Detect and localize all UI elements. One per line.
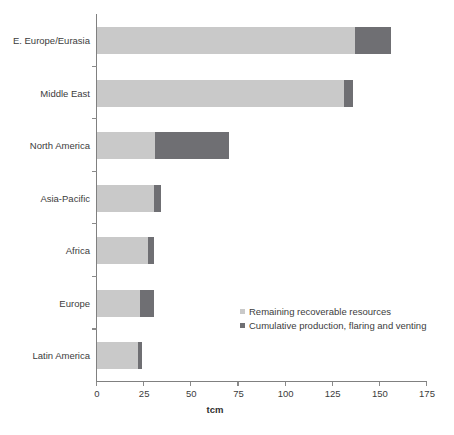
legend-item: Remaining recoverable resources [240, 306, 426, 317]
x-axis-title-label: tcm [207, 404, 224, 415]
x-axis-tick [285, 382, 286, 386]
chart-legend: Remaining recoverable resourcesCumulativ… [240, 306, 426, 334]
category-label: Africa [2, 237, 90, 264]
x-axis-tick [332, 382, 333, 386]
chart-category-row: Africa [97, 224, 427, 277]
bar-segment-remaining-recoverable-resources [97, 27, 355, 54]
legend-label: Cumulative production, flaring and venti… [249, 320, 426, 331]
stacked-bar [97, 290, 154, 317]
bar-segment-cumulative-production [138, 342, 142, 369]
x-axis-tick [96, 382, 97, 386]
stacked-bar [97, 185, 161, 212]
bar-segment-remaining-recoverable-resources [97, 80, 344, 107]
legend-swatch-icon [240, 309, 245, 314]
bar-segment-remaining-recoverable-resources [97, 237, 148, 264]
x-axis-tick [237, 382, 238, 386]
legend-label: Remaining recoverable resources [249, 306, 391, 317]
x-axis-title: tcm [0, 404, 454, 415]
x-axis-tick-label: 125 [325, 388, 341, 399]
bar-segment-cumulative-production [154, 185, 162, 212]
category-label: E. Europe/Eurasia [2, 27, 90, 54]
legend-item: Cumulative production, flaring and venti… [240, 320, 426, 331]
bar-segment-cumulative-production [355, 27, 391, 54]
category-label: North America [2, 132, 90, 159]
x-axis-tick [426, 382, 427, 386]
category-label: Latin America [2, 342, 90, 369]
category-label: Asia-Pacific [2, 185, 90, 212]
bar-segment-cumulative-production [344, 80, 353, 107]
chart-category-row: E. Europe/Eurasia [97, 14, 427, 67]
x-axis-tick-label: 50 [186, 388, 197, 399]
x-axis-tick-label: 150 [372, 388, 388, 399]
bar-chart: E. Europe/EurasiaMiddle EastNorth Americ… [0, 0, 454, 435]
category-label: Middle East [2, 80, 90, 107]
stacked-bar [97, 237, 154, 264]
chart-category-row: Asia-Pacific [97, 172, 427, 225]
category-label: Europe [2, 290, 90, 317]
x-axis-tick-label: 100 [278, 388, 294, 399]
legend-swatch-icon [240, 323, 245, 328]
x-axis-tick [143, 382, 144, 386]
bar-segment-remaining-recoverable-resources [97, 132, 155, 159]
x-axis-tick-label: 75 [233, 388, 244, 399]
bar-segment-remaining-recoverable-resources [97, 185, 154, 212]
bar-segment-cumulative-production [155, 132, 229, 159]
x-axis-tick-label: 25 [139, 388, 150, 399]
bar-segment-cumulative-production [140, 290, 153, 317]
chart-category-row: Middle East [97, 67, 427, 120]
chart-category-row: Latin America [97, 329, 427, 382]
bar-segment-cumulative-production [148, 237, 154, 264]
stacked-bar [97, 80, 353, 107]
bar-segment-remaining-recoverable-resources [97, 342, 138, 369]
stacked-bar [97, 27, 391, 54]
bar-segment-remaining-recoverable-resources [97, 290, 140, 317]
stacked-bar [97, 342, 142, 369]
x-axis-tick-label: 0 [94, 388, 99, 399]
stacked-bar [97, 132, 229, 159]
x-axis-tick [379, 382, 380, 386]
x-axis-tick-label: 175 [419, 388, 435, 399]
x-axis-tick [190, 382, 191, 386]
chart-category-row: North America [97, 119, 427, 172]
